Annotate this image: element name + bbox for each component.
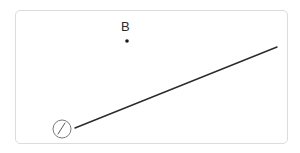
badge-one-stroke (58, 123, 65, 134)
point-b-dot (125, 39, 129, 43)
ray-line (75, 47, 277, 128)
figure-root: B (0, 0, 300, 153)
point-b-label: B (121, 20, 130, 33)
badge-one-circle (53, 120, 71, 138)
figure-canvas (0, 0, 300, 153)
